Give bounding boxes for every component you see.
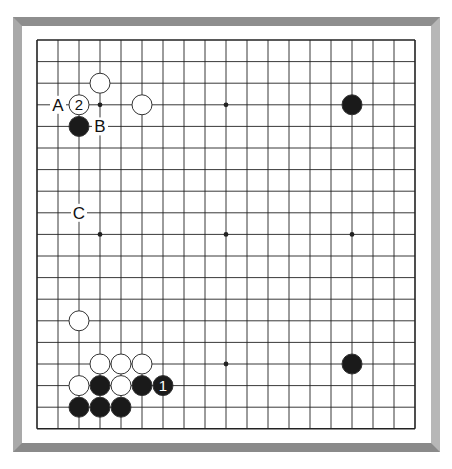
white-stone bbox=[90, 73, 110, 93]
white-stone bbox=[90, 354, 110, 374]
point-label-b: B bbox=[94, 117, 105, 136]
point-label-a: A bbox=[52, 96, 64, 115]
star-point bbox=[98, 102, 103, 107]
star-point bbox=[350, 232, 355, 237]
white-stone bbox=[69, 311, 89, 331]
star-point bbox=[224, 102, 229, 107]
point-label-c: C bbox=[73, 204, 85, 223]
white-stone bbox=[69, 376, 89, 396]
go-board: ABC 21 bbox=[0, 0, 452, 469]
black-stone bbox=[90, 376, 110, 396]
black-stone bbox=[111, 397, 131, 417]
black-stone bbox=[69, 116, 89, 136]
move-number-label: 2 bbox=[75, 96, 83, 113]
white-stone bbox=[132, 354, 152, 374]
white-stone bbox=[111, 354, 131, 374]
black-stone bbox=[69, 397, 89, 417]
white-stone bbox=[111, 376, 131, 396]
star-point bbox=[224, 362, 229, 367]
star-point bbox=[224, 232, 229, 237]
black-stone bbox=[132, 376, 152, 396]
move-number-label: 1 bbox=[159, 377, 167, 394]
star-point bbox=[98, 232, 103, 237]
black-stone bbox=[342, 95, 362, 115]
black-stone bbox=[342, 354, 362, 374]
black-stone bbox=[90, 397, 110, 417]
white-stone bbox=[132, 95, 152, 115]
stones: 21 bbox=[69, 73, 362, 417]
